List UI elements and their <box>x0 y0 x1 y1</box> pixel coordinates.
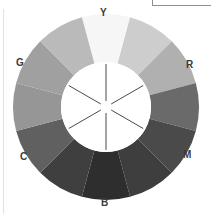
segment-label-cyan: C <box>20 152 27 162</box>
segment-label-yellow: Y <box>100 8 107 18</box>
segment-label-green: G <box>16 58 24 68</box>
segment-label-blue: B <box>101 198 108 208</box>
segment-label-red: R <box>186 60 193 70</box>
color-wheel-figure: Y R M B C G <box>0 0 211 214</box>
color-wheel-diagram <box>0 0 211 214</box>
wheel-stage <box>0 0 211 214</box>
segment-label-magenta: M <box>183 150 192 160</box>
